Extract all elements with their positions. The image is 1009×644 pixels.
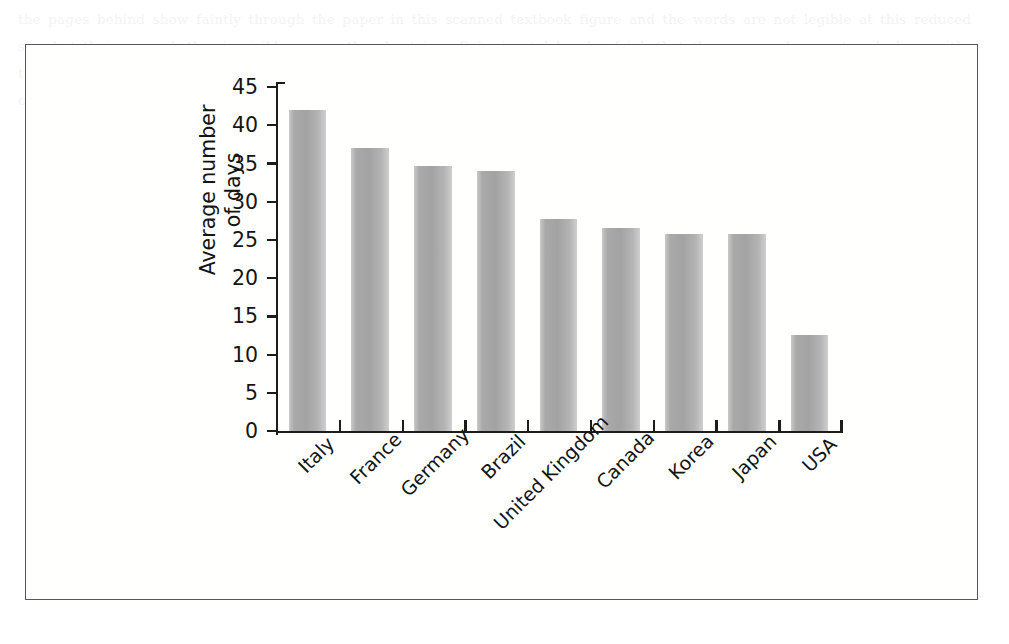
x-axis-label: France [346, 428, 406, 488]
y-axis-title-line-1: Average number [196, 95, 221, 285]
x-axis-tick [402, 420, 404, 433]
y-axis-tick: 40 [267, 124, 278, 126]
bar [477, 171, 515, 431]
x-axis-tick [527, 420, 529, 433]
x-axis-tick [653, 420, 655, 433]
x-axis-label: USA [797, 433, 840, 476]
y-axis-line [276, 83, 278, 435]
bar [289, 110, 327, 431]
y-axis-tick-label: 45 [232, 75, 258, 99]
y-axis-tick: 25 [267, 239, 278, 241]
y-axis-tick-label: 5 [245, 381, 258, 405]
bar [540, 219, 578, 431]
x-axis-label: Brazil [476, 430, 529, 483]
plot-area: 051015202530354045 ItalyFranceGermanyBra… [276, 87, 841, 431]
y-axis-tick: 15 [267, 315, 278, 317]
x-axis-label: Italy [294, 432, 339, 477]
y-axis-top-cap [276, 82, 285, 84]
y-axis-tick: 45 [267, 86, 278, 88]
bar-chart: Average number of days 05101520253035404… [26, 45, 979, 601]
y-axis-tick: 0 [267, 430, 278, 432]
y-axis-tick: 10 [267, 354, 278, 356]
x-axis-label: Korea [664, 430, 718, 484]
y-axis-tick-label: 0 [245, 419, 258, 443]
y-axis-tick: 5 [267, 392, 278, 394]
figure-frame: Average number of days 05101520253035404… [25, 44, 978, 600]
x-axis-line [276, 431, 843, 433]
x-axis-tick [715, 420, 717, 433]
bar [728, 234, 766, 431]
bar [665, 234, 703, 431]
y-axis-tick-label: 25 [232, 228, 258, 252]
bar [791, 335, 829, 431]
bar [351, 148, 389, 431]
x-axis-label: Canada [592, 426, 659, 493]
bar [602, 228, 640, 431]
x-axis-label: Japan [727, 430, 780, 483]
x-axis-tick [841, 420, 843, 433]
x-axis-tick [778, 420, 780, 433]
y-axis-tick: 30 [267, 201, 278, 203]
bar [414, 166, 452, 431]
x-axis-tick [339, 420, 341, 433]
y-axis-tick: 20 [267, 277, 278, 279]
y-axis-tick-label: 40 [232, 113, 258, 137]
y-axis-tick-label: 20 [232, 266, 258, 290]
x-axis-label: Germany [396, 423, 473, 500]
y-axis-tick-label: 30 [232, 190, 258, 214]
y-axis-tick-label: 15 [232, 304, 258, 328]
y-axis-tick-label: 10 [232, 343, 258, 367]
y-axis-tick: 35 [267, 162, 278, 164]
y-axis-tick-label: 35 [232, 152, 258, 176]
